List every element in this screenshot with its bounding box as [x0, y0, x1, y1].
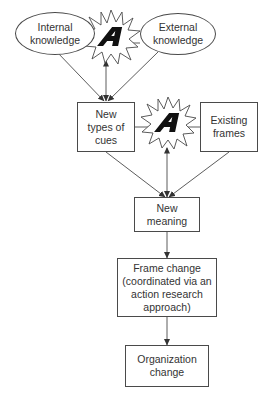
node-label: Frame change (coordinated via an action … — [122, 262, 211, 314]
node-label: New meaning — [147, 202, 187, 228]
node-frame-change: Frame change (coordinated via an action … — [117, 258, 217, 317]
connectors-layer — [0, 0, 266, 400]
arrow-internal-to-cues — [57, 52, 104, 101]
node-organization-change: Organization change — [125, 345, 209, 387]
node-label: External knowledge — [153, 21, 203, 47]
node-new-types-of-cues: New types of cues — [77, 102, 135, 152]
arrow-cues-to-meaning — [106, 152, 165, 197]
node-label: New types of cues — [88, 108, 125, 147]
node-existing-frames: Existing frames — [200, 102, 258, 152]
flow-diagram: Internal knowledge External knowledge Ne… — [0, 0, 266, 400]
starburst-icon — [141, 97, 196, 149]
node-label: Internal knowledge — [30, 21, 80, 47]
node-new-meaning: New meaning — [134, 197, 200, 232]
arrow-frames-to-meaning — [169, 152, 229, 197]
node-internal-knowledge: Internal knowledge — [15, 12, 95, 55]
node-external-knowledge: External knowledge — [140, 13, 216, 55]
node-label: Organization change — [137, 353, 197, 379]
node-label: Existing frames — [211, 114, 248, 140]
